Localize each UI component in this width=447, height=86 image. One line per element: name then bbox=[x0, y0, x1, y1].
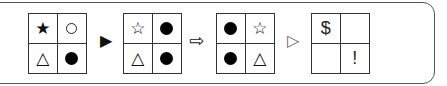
hollow-triangle-icon: △ bbox=[253, 50, 266, 67]
grid-1-cell-top-left: ★ bbox=[29, 14, 58, 44]
grid-4-cell-bottom-right: ! bbox=[341, 44, 370, 74]
grid-2-cell-bottom-left: △ bbox=[124, 44, 153, 74]
filled-circle-icon bbox=[160, 22, 173, 35]
grid-2: ☆ △ bbox=[123, 13, 182, 74]
grid-4-cell-bottom-left bbox=[312, 44, 341, 74]
dollar-sign-symbol: $ bbox=[321, 19, 331, 37]
grid-3-cell-top-right: ☆ bbox=[246, 14, 275, 44]
filled-circle-icon bbox=[224, 22, 237, 35]
grid-1-cell-bottom-left: △ bbox=[29, 44, 58, 74]
hollow-block-arrow-icon: ⇨ bbox=[189, 32, 204, 50]
grid-1-cell-top-right bbox=[58, 14, 87, 44]
hollow-triangle-icon: △ bbox=[36, 50, 49, 67]
filled-circle-icon bbox=[160, 52, 173, 65]
grid-2-cell-bottom-right bbox=[153, 44, 182, 74]
hollow-triangle-arrow-icon: ▷ bbox=[287, 33, 299, 49]
filled-star-icon: ★ bbox=[35, 20, 50, 37]
grid-3: ☆ △ bbox=[216, 13, 275, 74]
exclamation-symbol: ! bbox=[352, 49, 357, 67]
grid-4-cell-top-right bbox=[341, 14, 370, 44]
filled-circle-icon bbox=[65, 52, 78, 65]
grid-1-cell-bottom-right bbox=[58, 44, 87, 74]
grid-4: $ ! bbox=[311, 13, 370, 74]
grid-3-cell-top-left bbox=[217, 14, 246, 44]
grid-2-cell-top-left: ☆ bbox=[124, 14, 153, 44]
grid-1: ★ △ bbox=[28, 13, 87, 74]
grid-4-cell-top-left: $ bbox=[312, 14, 341, 44]
hollow-star-icon: ☆ bbox=[130, 20, 145, 37]
filled-circle-icon bbox=[224, 52, 237, 65]
filled-triangle-arrow-icon: ▶ bbox=[100, 33, 112, 49]
grid-3-cell-bottom-left bbox=[217, 44, 246, 74]
hollow-triangle-icon: △ bbox=[131, 50, 144, 67]
grid-2-cell-top-right bbox=[153, 14, 182, 44]
grid-3-cell-bottom-right: △ bbox=[246, 44, 275, 74]
hollow-circle-icon bbox=[66, 23, 77, 34]
hollow-star-icon: ☆ bbox=[252, 20, 267, 37]
